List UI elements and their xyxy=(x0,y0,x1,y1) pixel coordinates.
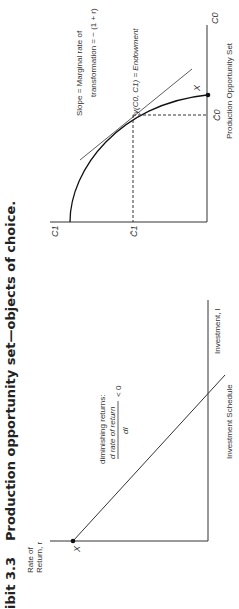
formula-numerator: d rate of return xyxy=(108,406,117,459)
rate-axis-label-2: Return, r xyxy=(35,542,44,573)
point-x-right xyxy=(206,93,211,98)
figure-title: Production opportunity set—objects of ch… xyxy=(3,201,18,541)
point-x-left xyxy=(71,539,76,544)
investment-schedule-chart: X Rate of Return, r Investment, I Invest… xyxy=(26,300,234,573)
point-x-left-label: X xyxy=(72,545,82,553)
c0-axis-label: C0 xyxy=(210,12,220,24)
pps-caption: Production Opportunity Set xyxy=(225,42,234,139)
figure-svg: ibit 3.3 Production opportunity set—obje… xyxy=(0,0,239,609)
formula-relation: < 0 xyxy=(114,385,123,397)
rate-axis-label-1: Rate of xyxy=(26,546,35,573)
investment-schedule-line xyxy=(73,375,225,541)
figure-title-prefix: ibit 3.3 xyxy=(3,557,18,609)
c0-bar-label: C̄0 xyxy=(212,109,222,121)
c1-bar-label: C̄1 xyxy=(129,225,139,237)
point-x-right-label: X xyxy=(192,84,202,92)
endowment-label: y(C0, C1) = Endowment xyxy=(131,28,140,115)
investment-schedule-caption: Investment Schedule xyxy=(225,384,234,459)
c1-axis-label: C1 xyxy=(50,225,60,237)
production-opportunity-chart: X C1 C̄1 C0 C̄0 Production Opportunity S… xyxy=(50,8,234,237)
slope-label-1: Slope = Marginal rate of xyxy=(75,30,84,116)
slope-label-2: transformation = − (1 + r) xyxy=(89,8,98,97)
investment-axis-label: Investment, I xyxy=(213,308,222,354)
diminishing-returns-label: diminishing returns: xyxy=(98,395,107,464)
figure-stage: ibit 3.3 Production opportunity set—obje… xyxy=(0,0,239,609)
formula-denominator: dI xyxy=(121,427,130,434)
